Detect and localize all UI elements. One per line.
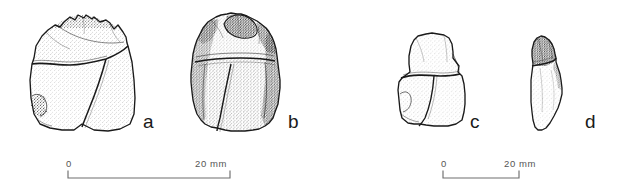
archaeological-figure-plate: a (0, 0, 621, 193)
artifact-label-c: c (470, 112, 480, 131)
scale-bar-left (62, 168, 237, 182)
artifact-label-b: b (288, 112, 299, 131)
artifact-drawing-b (175, 6, 295, 136)
artifact-label-d: d (585, 112, 596, 131)
artifact-drawing-c (392, 28, 482, 136)
artifact-drawing-d (520, 32, 576, 136)
artifact-label-a: a (143, 112, 154, 131)
artifact-drawing-a (22, 6, 147, 136)
scale-bar-right (437, 168, 532, 182)
